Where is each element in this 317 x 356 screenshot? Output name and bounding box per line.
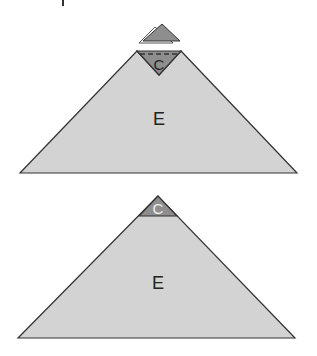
body-label-e: E (152, 273, 164, 293)
cap-label-c: C (153, 200, 164, 217)
detached-cap-triangle (143, 24, 180, 41)
diagram-canvas: C E C E (0, 0, 317, 356)
body-triangle-e (18, 196, 295, 338)
top-figure: C E (20, 24, 297, 173)
stray-mark (62, 0, 64, 6)
cap-label-c: C (154, 56, 165, 73)
body-label-e: E (153, 109, 165, 129)
bottom-figure: C E (18, 196, 295, 338)
